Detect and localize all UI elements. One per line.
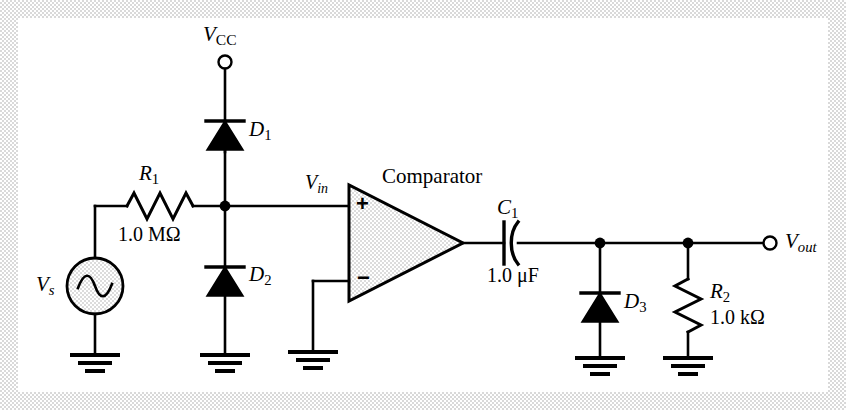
label-r2-subscript: 2 — [723, 289, 730, 305]
d1-anode-triangle — [207, 121, 243, 150]
label-vin: Vin — [305, 172, 328, 196]
label-d1: D1 — [249, 119, 272, 143]
ground-d3 — [577, 358, 623, 374]
label-vcc-subscript: CC — [216, 31, 237, 48]
vout-terminal — [764, 237, 777, 250]
label-d2: D2 — [249, 264, 272, 288]
label-r2: R2 — [710, 281, 730, 305]
comparator-plus-sign: + — [356, 193, 369, 215]
vcc-terminal — [219, 56, 232, 69]
label-r1-value: 1.0 MΩ — [118, 224, 181, 244]
label-vs-subscript: s — [49, 282, 55, 298]
ground-d2 — [202, 355, 248, 371]
label-comparator: Comparator — [382, 166, 482, 187]
label-r1-symbol: R — [139, 161, 152, 185]
label-d3-subscript: 3 — [639, 299, 646, 315]
label-c1-value: 1.0 μF — [487, 265, 539, 285]
label-d1-symbol: D — [249, 117, 264, 141]
ground-vs — [72, 355, 118, 371]
comparator-minus-sign: − — [357, 267, 370, 289]
label-vin-symbol: V — [305, 171, 317, 193]
label-vin-subscript: in — [317, 181, 328, 196]
r1-resistor-zigzag — [127, 193, 193, 219]
label-c1: C1 — [497, 197, 518, 221]
circuit-schematic-drawing — [0, 0, 846, 410]
label-d2-symbol: D — [249, 262, 264, 286]
label-vcc-symbol: V — [203, 22, 216, 46]
label-c1-symbol: C — [497, 195, 511, 219]
label-r2-value: 1.0 kΩ — [710, 307, 765, 327]
label-d2-subscript: 2 — [264, 272, 271, 288]
label-d3: D3 — [624, 291, 647, 315]
r2-resistor-zigzag — [675, 279, 701, 332]
ground-r2 — [665, 358, 711, 374]
label-vout: Vout — [785, 231, 817, 255]
circuit-figure: VCC D1 D2 R1 1.0 MΩ Vs Vin Comparator + … — [0, 0, 846, 410]
label-vout-symbol: V — [785, 229, 798, 253]
label-vcc: VCC — [203, 24, 237, 48]
label-d1-subscript: 1 — [264, 127, 271, 143]
label-vs-symbol: V — [36, 272, 49, 296]
label-vout-subscript: out — [798, 239, 817, 255]
label-vs: Vs — [36, 274, 55, 298]
label-r2-symbol: R — [710, 279, 723, 303]
label-d3-symbol: D — [624, 289, 639, 313]
label-r1-subscript: 1 — [152, 171, 159, 187]
label-r1: R1 — [139, 163, 159, 187]
label-c1-subscript: 1 — [511, 205, 518, 221]
ground-comparator — [290, 352, 336, 368]
